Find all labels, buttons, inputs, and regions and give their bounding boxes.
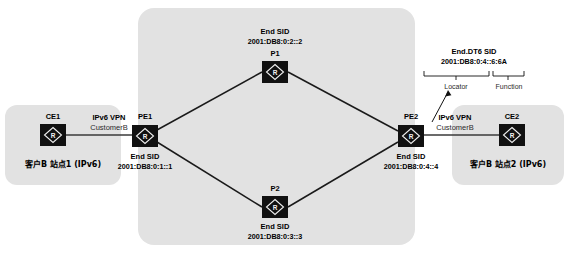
node-pe2[interactable]: R [398,125,424,147]
router-icon: R [499,124,525,146]
node-label-ce2: CE2 [505,112,520,122]
link-label-left-vpn: IPv6 VPN [93,113,126,123]
node-p2[interactable]: R [262,196,288,218]
svg-text:R: R [143,133,148,140]
node-label-p1: P1 [270,49,279,59]
site1-caption: 客户B 站点1 (IPv6) [25,160,101,170]
router-icon: R [132,125,158,147]
sid-title-p2: End SID [261,222,290,232]
sid-value-p2: 2001:DB8:0:3::3 [248,232,302,242]
sid-title-p1: End SID [261,27,290,37]
node-label-ce1: CE1 [46,112,61,122]
sid-value-p1: 2001:DB8:0:2::2 [248,37,302,47]
callout-locator-label: Locator [444,82,467,92]
node-ce1[interactable]: R [40,124,66,146]
callout-function-label: Function [496,82,523,92]
function-bracket [493,71,524,80]
router-icon: R [262,196,288,218]
router-icon: R [398,125,424,147]
sid-title-pe2: End SID [397,152,426,162]
sid-title-pe1: End SID [131,152,160,162]
link-label-right-vpn: IPv6 VPN [439,113,472,123]
node-label-pe1: PE1 [138,112,152,122]
node-ce2[interactable]: R [499,124,525,146]
node-label-pe2: PE2 [404,112,418,122]
svg-text:R: R [273,204,278,211]
link-label-left-customer: CustomerB [90,123,128,133]
sid-value-pe2: 2001:DB8:0:4::4 [384,162,438,172]
router-icon: R [262,61,288,83]
svg-text:R: R [51,132,56,139]
router-icon: R [40,124,66,146]
svg-text:R: R [273,69,278,76]
svg-text:R: R [409,133,414,140]
svg-text:R: R [510,132,515,139]
diagram-canvas: R R R R R R [0,0,568,263]
node-pe1[interactable]: R [132,125,158,147]
link-label-right-customer: CustomerB [436,123,474,133]
locator-bracket [424,71,489,80]
site2-caption: 客户B 站点2 (IPv6) [470,160,546,170]
callout-title: End.DT6 SID [451,47,496,57]
node-p1[interactable]: R [262,61,288,83]
node-label-p2: P2 [270,184,279,194]
sid-value-pe1: 2001:DB8:0:1::1 [118,162,172,172]
callout-value: 2001:DB8:0:4::6:6A [441,57,507,67]
